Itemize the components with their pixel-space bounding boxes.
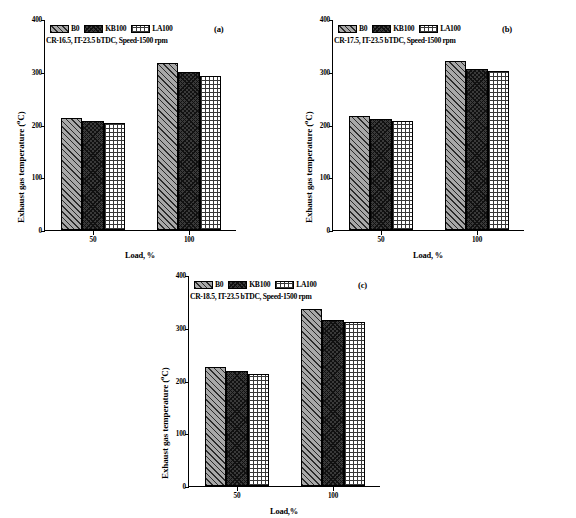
panel-tag: (b)	[502, 24, 512, 34]
bar-kb100-load-100	[178, 72, 200, 230]
y-axis-tick-label: 200	[32, 122, 42, 130]
y-axis-tick-label: 0	[327, 227, 330, 235]
chart-panel-b: 010020030040050100Exhaust gas temperatur…	[288, 2, 576, 260]
bar-la100-load-50	[392, 121, 414, 230]
panel-annotation: CR-18.5, IT-23.5 bTDC, Speed-1500 rpm	[190, 292, 312, 301]
legend-swatch-b0	[50, 25, 69, 33]
legend-swatch-b0	[194, 281, 213, 289]
y-axis-label: Exhaust gas temperature (oC)	[302, 111, 314, 223]
x-axis-tick-label: 100	[472, 236, 482, 244]
legend-label-b0: B0	[215, 280, 223, 289]
panel-annotation: CR-17.5, IT-23.5 bTDC, Speed-1500 rpm	[334, 36, 456, 45]
x-axis-tick	[333, 487, 334, 491]
x-axis-tick	[93, 231, 94, 235]
bar-kb100-load-50	[82, 121, 104, 230]
degree-symbol: o	[14, 121, 21, 124]
bar-kb100-load-50	[226, 371, 248, 486]
x-axis-tick	[237, 487, 238, 491]
y-axis-label-text: Exhaust gas temperature (	[304, 124, 314, 223]
panel-annotation: CR-16.5, IT-23.5 bTDC, Speed-1500 rpm	[46, 36, 168, 45]
x-axis-tick	[477, 231, 478, 235]
bar-la100-load-100	[200, 76, 222, 230]
bar-kb100-load-100	[466, 69, 488, 230]
legend-label-kb100: KB100	[393, 24, 414, 33]
y-axis-tick-label: 100	[32, 174, 42, 182]
legend-swatch-la100	[275, 281, 294, 289]
bar-b0-load-100	[301, 309, 323, 486]
x-axis-tick	[189, 231, 190, 235]
legend-label-b0: B0	[359, 24, 367, 33]
legend: B0KB100LA100	[338, 24, 465, 33]
x-axis-tick-label: 50	[234, 492, 241, 500]
legend-label-b0: B0	[71, 24, 79, 33]
panel-tag: (c)	[358, 280, 367, 290]
y-axis-tick-label: 100	[320, 174, 330, 182]
legend: B0KB100LA100	[50, 24, 177, 33]
bar-la100-load-100	[344, 322, 366, 486]
legend-item-la100: LA100	[131, 24, 176, 33]
y-axis-tick-label: 200	[320, 122, 330, 130]
legend-label-kb100: KB100	[249, 280, 270, 289]
legend-item-kb100: KB100	[84, 24, 130, 33]
x-axis-tick	[381, 231, 382, 235]
y-axis-label: Exhaust gas temperature (oC)	[14, 111, 26, 223]
legend-item-la100: LA100	[419, 24, 464, 33]
legend-item-kb100: KB100	[228, 280, 274, 289]
degree-symbol: o	[302, 121, 309, 124]
legend-swatch-kb100	[228, 281, 247, 289]
legend-label-la100: LA100	[440, 24, 460, 33]
legend-label-la100: LA100	[296, 280, 316, 289]
bar-la100-load-50	[104, 123, 126, 230]
legend-label-la100: LA100	[152, 24, 172, 33]
legend-swatch-la100	[131, 25, 150, 33]
y-axis-tick-label: 300	[320, 69, 330, 77]
y-axis-label: Exhaust gas temperature (oC)	[158, 367, 170, 479]
bar-la100-load-50	[248, 374, 270, 486]
figure-root: 010020030040050100Exhaust gas temperatur…	[0, 0, 576, 518]
legend-swatch-b0	[338, 25, 357, 33]
bar-b0-load-50	[61, 118, 83, 230]
bar-la100-load-100	[488, 71, 510, 230]
bar-b0-load-50	[349, 116, 371, 230]
y-axis-tick-label: 300	[32, 69, 42, 77]
legend-swatch-la100	[419, 25, 438, 33]
chart-panel-c: 010020030040050100Exhaust gas temperatur…	[144, 258, 432, 516]
panel-tag: (a)	[214, 24, 223, 34]
legend-item-b0: B0	[194, 280, 227, 289]
y-axis-tick-label: 0	[183, 483, 186, 491]
y-axis-tick-label: 400	[176, 272, 186, 280]
bar-b0-load-100	[157, 63, 179, 230]
degree-symbol: o	[158, 377, 165, 380]
y-axis-label-text: Exhaust gas temperature (	[16, 124, 26, 223]
y-axis-tick-label: 300	[176, 325, 186, 333]
bar-kb100-load-100	[322, 320, 344, 486]
chart-panel-a: 010020030040050100Exhaust gas temperatur…	[0, 2, 288, 260]
y-axis-tick-label: 400	[320, 16, 330, 24]
y-axis-tick-label: 400	[32, 16, 42, 24]
legend-item-b0: B0	[338, 24, 371, 33]
y-axis-tick-label: 100	[176, 430, 186, 438]
bar-b0-load-50	[205, 367, 227, 486]
legend-item-b0: B0	[50, 24, 83, 33]
y-axis-tick-label: 200	[176, 378, 186, 386]
plot-area: 010020030040050100	[188, 276, 380, 487]
plot-area: 010020030040050100	[44, 20, 236, 231]
x-axis-tick-label: 100	[184, 236, 194, 244]
legend-swatch-kb100	[84, 25, 103, 33]
legend-item-kb100: KB100	[372, 24, 418, 33]
x-axis-tick-label: 50	[378, 236, 385, 244]
legend-swatch-kb100	[372, 25, 391, 33]
y-axis-label-unit: C)	[304, 111, 314, 120]
y-axis-label-unit: C)	[16, 111, 26, 120]
y-axis-label-text: Exhaust gas temperature (	[160, 380, 170, 479]
plot-area: 010020030040050100	[332, 20, 524, 231]
x-axis-label: Load,%	[270, 507, 298, 516]
legend-item-la100: LA100	[275, 280, 320, 289]
bar-kb100-load-50	[370, 119, 392, 230]
y-axis-tick-label: 0	[39, 227, 42, 235]
legend-label-kb100: KB100	[105, 24, 126, 33]
y-axis-label-unit: C)	[160, 367, 170, 376]
x-axis-tick-label: 50	[90, 236, 97, 244]
x-axis-tick-label: 100	[328, 492, 338, 500]
bar-b0-load-100	[445, 61, 467, 230]
